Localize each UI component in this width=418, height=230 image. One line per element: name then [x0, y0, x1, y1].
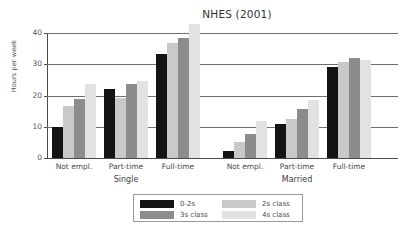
y-axis-tick-label: 10 [24, 123, 42, 131]
legend-label: 0-2s [180, 199, 195, 209]
bar [245, 134, 256, 158]
y-axis-tick-label: 30 [24, 60, 42, 68]
bar [52, 127, 63, 158]
bar [156, 54, 167, 158]
plot-area [47, 33, 398, 158]
bar [308, 100, 319, 158]
y-axis-tick-label: 40 [24, 29, 42, 37]
legend-swatch [222, 200, 256, 208]
chart-legend: 0-2s2s class3s class4s class [133, 194, 303, 222]
bar [349, 58, 360, 158]
x-axis-category-label: Full-time [148, 162, 208, 171]
bar [338, 62, 349, 158]
legend-label: 4s class [262, 210, 290, 220]
legend-swatch [222, 211, 256, 219]
bar [297, 109, 308, 158]
bar [286, 119, 297, 158]
x-axis-category-label: Not empl. [215, 162, 275, 171]
bar [126, 84, 137, 158]
bar [115, 98, 126, 158]
y-axis-tick-label: 0 [24, 154, 42, 162]
bar [74, 99, 85, 158]
legend-label: 2s class [262, 199, 290, 209]
bar [327, 67, 338, 158]
bar [178, 38, 189, 158]
x-axis-category-label: Part-time [267, 162, 327, 171]
x-axis-category-label: Not empl. [44, 162, 104, 171]
bar [256, 121, 267, 159]
bar [360, 60, 371, 158]
legend-swatch [140, 211, 174, 219]
bar [63, 106, 74, 158]
bar [223, 151, 234, 158]
x-axis-category-label: Full-time [319, 162, 379, 171]
chart-figure: NHES (2001) Hours per week 010203040 Not… [0, 0, 418, 230]
bar [234, 142, 245, 158]
gridline [47, 158, 398, 159]
y-axis-tick-label: 20 [24, 92, 42, 100]
x-axis-group-label: Married [257, 175, 337, 184]
chart-title: NHES (2001) [28, 8, 418, 20]
gridline [47, 33, 398, 34]
bar [85, 84, 96, 158]
y-axis-label: Hours per week [10, 26, 18, 106]
legend-swatch [140, 200, 174, 208]
x-axis-group-label: Single [86, 175, 166, 184]
bar [275, 124, 286, 158]
bar [167, 43, 178, 158]
x-axis-category-label: Part-time [96, 162, 156, 171]
bar [104, 89, 115, 158]
bar [137, 81, 148, 159]
bar [189, 24, 200, 158]
legend-label: 3s class [180, 210, 208, 220]
